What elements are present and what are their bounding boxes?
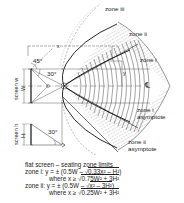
y-label: y <box>123 70 126 77</box>
zone-i-eq-post: ) <box>119 168 121 175</box>
seating-zone-diagram: zone iii zone ii zone i x y ℄ 45° 30° 30… <box>0 0 184 155</box>
zone-i-label: zone i <box>140 56 157 63</box>
zone-i-asymptote-label-2: asymptote <box>137 113 166 120</box>
W-label: W <box>20 86 26 91</box>
zone-ii-asymptote-label-2: asymptote <box>128 145 157 152</box>
zone-ii-where-radicand: 0.25W² + 3H² <box>81 188 119 196</box>
zone-iii-label: zone iii <box>105 5 124 12</box>
angle-30-bottom-label: 30° <box>48 128 57 135</box>
H-label: H <box>20 134 26 138</box>
zone-i-eq-pre: y = ± (0.5W – <box>45 168 84 175</box>
angle-45-label: 45° <box>33 57 42 64</box>
zone-ii-label: zone ii <box>129 30 147 37</box>
angle-30-top-label: 30° <box>47 70 56 77</box>
centerline-symbol: ℄ <box>145 82 150 89</box>
screen-h-label: screen h <box>13 124 19 145</box>
zone-i-where-pre: where x ≥ <box>49 175 78 182</box>
zone-ii-formula-label: zone ii: <box>25 182 45 189</box>
zone-ii-asymptote-label-1: zone ii <box>128 138 146 145</box>
zone-i-formula-label: zone i: <box>25 168 44 175</box>
zone-ii-where-pre: where x ≥ <box>49 189 78 196</box>
x-label: x <box>57 43 60 50</box>
diagram-drawing <box>0 0 184 155</box>
screen-w-label: screen w <box>13 78 19 100</box>
zone-i-asymptote-label-1: zone i <box>137 106 154 113</box>
zone-ii-condition: where x ≥ √0.25W² + 3H² <box>49 189 119 196</box>
eye-icon <box>62 143 65 147</box>
